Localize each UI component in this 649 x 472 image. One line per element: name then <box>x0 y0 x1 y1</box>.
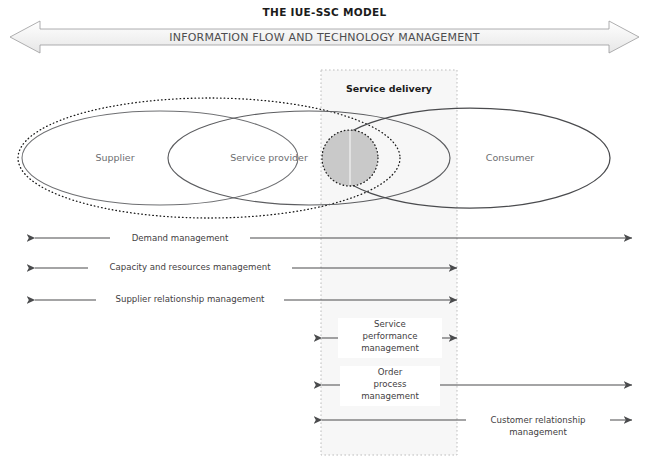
flow-label-supplier-relationship-management: Supplier relationship management <box>96 293 284 305</box>
flow-label-order-process-management: Orderprocessmanagement <box>342 366 438 402</box>
banner-label: INFORMATION FLOW AND TECHNOLOGY MANAGEME… <box>0 31 649 44</box>
page-title: THE IUE-SSC MODEL <box>0 6 649 18</box>
flow-label-service-performance-management: Serviceperformancemanagement <box>340 318 440 354</box>
service-delivery-label: Service delivery <box>321 83 457 94</box>
flow-label-capacity-and-resources-management: Capacity and resources management <box>88 261 292 273</box>
shared-service-core-circle <box>322 130 378 186</box>
flow-label-demand-management: Demand management <box>110 232 250 244</box>
flow-label-customer-relationship-management: Customer relationshipmanagement <box>468 414 608 438</box>
supplier-label: Supplier <box>55 152 175 163</box>
service-provider-label: Service provider <box>208 152 330 163</box>
consumer-label: Consumer <box>450 152 570 163</box>
diagram-graphics <box>0 0 649 472</box>
diagram-canvas: THE IUE-SSC MODEL INFORMATION FLOW AND T… <box>0 0 649 472</box>
